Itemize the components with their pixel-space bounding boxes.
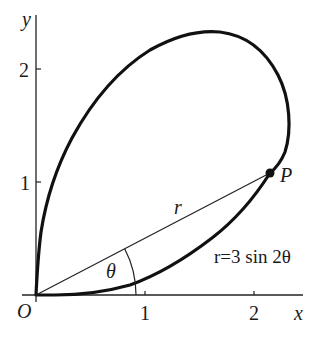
polar-curve-figure: y 2 1 O 1 2 x P r θ r=3 sin 2θ [0,0,322,341]
x-tick-label-2: 2 [249,302,259,324]
point-p-label: P [279,164,292,186]
origin-label: O [17,300,31,322]
y-tick-label-1: 1 [20,172,30,194]
y-axis-label: y [20,8,31,31]
equation-label: r=3 sin 2θ [214,246,291,267]
radius-label: r [174,196,182,218]
x-tick-label-1: 1 [140,302,150,324]
angle-label: θ [106,260,116,282]
x-axis-label: x [293,302,303,324]
angle-arc [125,249,136,295]
point-p [266,169,275,178]
y-tick-label-2: 2 [19,59,29,81]
